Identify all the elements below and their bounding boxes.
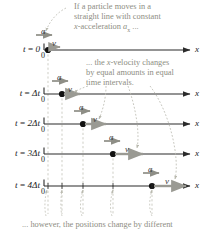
time-val-0: 0 <box>35 44 40 54</box>
origin-label-0: 0 <box>41 51 45 60</box>
bottom-leader-arrows <box>45 190 152 216</box>
origin-label-2: 0 <box>41 125 45 134</box>
acceleration-label-0: a <box>41 26 46 36</box>
callout-bottom-line1: ... however, the positions change by dif… <box>22 220 173 229</box>
callout-mid-line2: by equal amounts in equal <box>86 68 174 78</box>
callout-mid-post: -velocity changes <box>110 58 169 67</box>
time-label-row-4: t = 4Δt <box>0 180 40 190</box>
axis-label-x-0: x <box>195 44 199 54</box>
acceleration-label-1: a <box>57 72 62 82</box>
time-eq-2: = <box>18 118 28 128</box>
top-callout-leader <box>46 8 66 31</box>
callout-mid-line1: ... the x-velocity changes <box>86 58 169 68</box>
time-eq-0: = <box>26 44 36 54</box>
origin-label-1: 0 <box>41 95 45 104</box>
velocity-callout-leaders <box>74 86 176 179</box>
callout-top-line2: straight line with constant <box>74 12 161 22</box>
velocity-label-2: v <box>93 114 97 124</box>
time-eq-3: = <box>18 148 28 158</box>
velocity-label-4: v <box>165 176 169 186</box>
time-label-row-1: t = Δt <box>0 88 40 98</box>
acceleration-label-4: a <box>148 164 153 174</box>
time-val-4: 4Δt <box>27 180 40 190</box>
row-axis-0 <box>36 35 190 53</box>
velocity-label-1: v <box>68 84 72 94</box>
time-label-row-2: t = 2Δt <box>0 118 40 128</box>
callout-mid-line3: time intervals. <box>86 78 134 88</box>
row-axis-3 <box>44 141 190 157</box>
origin-label-4: 0 <box>41 187 45 196</box>
time-val-2: 2Δt <box>27 118 40 128</box>
callout-top-line3: x-acceleration ax ... <box>74 22 139 35</box>
time-label-row-0: t = 0 <box>0 44 40 54</box>
time-val-3: 3Δt <box>27 148 40 158</box>
figure-canvas: If a particle moves in a straight line w… <box>0 0 209 230</box>
time-eq-1: = <box>22 88 32 98</box>
axis-label-x-1: x <box>195 88 199 98</box>
callout-mid-pre: ... the <box>86 58 107 67</box>
axis-label-x-3: x <box>195 148 199 158</box>
origin-label-3: 0 <box>41 155 45 164</box>
axis-label-x-4: x <box>195 180 199 190</box>
time-eq-4: = <box>18 180 28 190</box>
callout-top-line1: If a particle moves in a <box>74 2 151 12</box>
time-label-row-3: t = 3Δt <box>0 148 40 158</box>
velocity-label-3: v <box>125 144 129 154</box>
velocity-label-0: v <box>52 38 56 48</box>
row-axis-2 <box>44 111 190 127</box>
callout-top-acc-word: -acceleration <box>78 22 123 31</box>
callout-top-ellipsis: ... <box>130 22 138 31</box>
acceleration-label-2: a <box>79 102 84 112</box>
time-val-1: Δt <box>32 88 40 98</box>
acceleration-label-3: a <box>109 132 114 142</box>
axis-label-x-2: x <box>195 118 199 128</box>
